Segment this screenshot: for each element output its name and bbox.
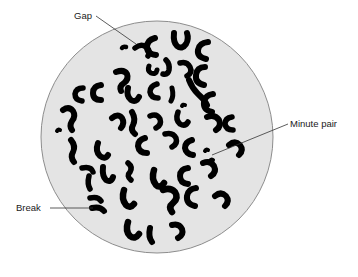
chr-41 <box>92 207 104 211</box>
label-minute-pair: Minute pair <box>290 118 337 129</box>
chromosome-spread-figure: Gap Minute pair Break <box>0 0 358 277</box>
chr-50 <box>182 105 185 106</box>
chr-47 <box>149 228 152 242</box>
chr-15 <box>171 88 173 101</box>
chr-49 <box>57 130 60 131</box>
chr-20 <box>132 112 135 134</box>
chr-34 <box>88 176 90 189</box>
figure-canvas: Gap Minute pair Break <box>0 0 358 277</box>
label-break: Break <box>16 202 41 213</box>
chr-02 <box>122 47 126 48</box>
chr-30 <box>205 150 208 151</box>
label-gap: Gap <box>74 10 92 21</box>
chr-36 <box>128 163 131 180</box>
chr-25 <box>71 140 74 162</box>
